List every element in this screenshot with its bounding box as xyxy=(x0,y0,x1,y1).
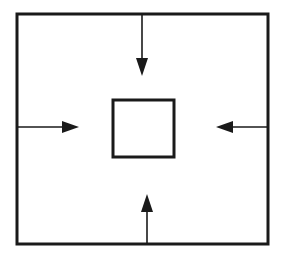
arrow-bottom-up-icon xyxy=(141,194,153,244)
arrow-top-down-icon xyxy=(136,14,148,76)
arrow-left-right-icon xyxy=(17,121,79,133)
inner-box xyxy=(113,100,174,157)
arrow-right-left-icon xyxy=(216,121,268,133)
diagram-canvas xyxy=(0,0,288,260)
